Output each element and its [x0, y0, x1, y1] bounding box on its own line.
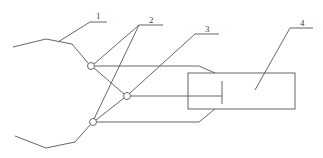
label-4: 4 — [300, 18, 305, 28]
upper-to-middle-link — [94, 68, 124, 94]
label-2: 2 — [149, 15, 154, 25]
leader-2-to-lower-node — [94, 25, 139, 119]
label-3: 3 — [205, 24, 210, 34]
lower-to-middle-link — [96, 98, 124, 120]
leader-4-line — [255, 28, 290, 90]
leader-3-line — [130, 34, 195, 93]
upper-contour-line — [13, 39, 88, 63]
leader-1-line — [58, 22, 90, 42]
box-component — [188, 73, 295, 109]
leader-2-to-upper-node — [94, 25, 139, 64]
upper-node-circle — [88, 63, 95, 70]
upper-wire — [95, 66, 215, 73]
label-1: 1 — [96, 11, 101, 21]
lower-wire — [97, 109, 215, 122]
lower-node-circle — [90, 119, 97, 126]
diagram-canvas: 1 2 3 4 — [0, 0, 323, 158]
middle-node-circle — [124, 93, 131, 100]
lower-contour-line — [15, 125, 90, 148]
